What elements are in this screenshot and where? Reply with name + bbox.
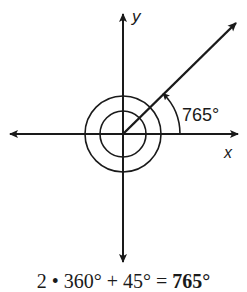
coordinate-diagram: y x 765° — [0, 0, 247, 292]
rotation-arc-final — [163, 94, 180, 134]
y-axis-label: y — [131, 7, 142, 26]
equation-result: 765° — [172, 270, 210, 292]
angle-label: 765° — [182, 105, 219, 125]
x-axis-label: x — [223, 144, 233, 161]
equation-left: 2 • 360° + 45° = — [37, 270, 173, 292]
equation: 2 • 360° + 45° = 765° — [0, 270, 247, 292]
